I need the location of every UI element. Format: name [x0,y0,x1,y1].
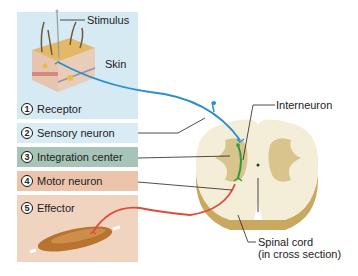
spinal-cord-illustration [196,120,318,230]
skin-label: Skin [105,58,126,70]
spinal-cord-sublabel: (in cross section) [258,248,341,260]
interneuron-label: Interneuron [276,99,332,111]
spinal-cord-label: Spinal cord [258,236,313,248]
reflex-arc-illustration [0,0,358,276]
muscle-illustration [30,221,120,256]
skin-illustration [32,10,95,93]
stimulus-label: Stimulus [87,14,129,26]
